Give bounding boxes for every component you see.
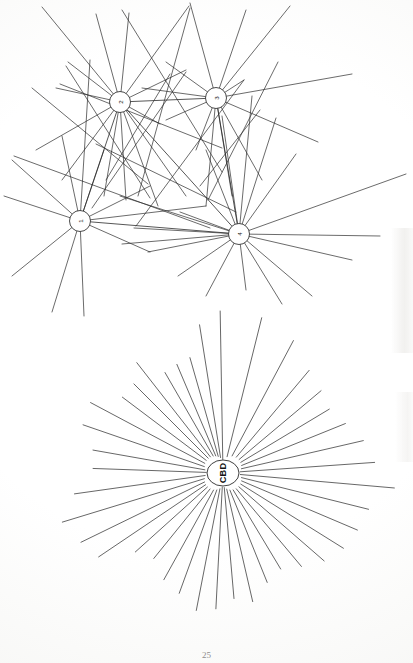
internal-link-line [218, 108, 237, 223]
node-spoke-line [249, 236, 352, 260]
node-spoke-line [249, 174, 406, 230]
node-spoke-line [90, 225, 150, 252]
free-desire-line [208, 62, 278, 200]
node-spoke-line [62, 110, 114, 180]
cbd-ray-line [81, 482, 205, 542]
cbd-ray-line [154, 489, 210, 558]
cbd-ray-line [239, 391, 321, 460]
node-spoke-line [52, 231, 77, 312]
internal-link-line [127, 110, 232, 226]
node-spoke-line [124, 112, 158, 206]
page-number: 25 [0, 650, 413, 660]
node-spoke-line [126, 111, 186, 196]
figure-bottom-cbd-star: CBD [0, 310, 413, 650]
cbd-ray-line [134, 384, 208, 458]
node-spoke-line [206, 108, 215, 206]
top-network-free-lines [14, 8, 278, 228]
node-spoke-line [242, 118, 276, 224]
network-node-label-4: 4 [236, 232, 243, 236]
cbd-ray-line [227, 318, 262, 457]
node-spoke-line [247, 241, 312, 296]
cbd-ray-line [93, 450, 205, 470]
node-spoke-line [12, 160, 72, 214]
cbd-ray-line [190, 358, 218, 457]
free-desire-line [60, 84, 222, 148]
node-spoke-line [89, 186, 150, 216]
cbd-hub: CBD [207, 460, 239, 486]
cbd-ray-line [224, 488, 234, 599]
cbd-ray-line [220, 311, 223, 459]
internal-link-line [130, 98, 205, 101]
node-spoke-line [225, 80, 244, 92]
node-spoke-line [80, 231, 84, 316]
node-spoke-line [62, 136, 78, 211]
node-spoke-line [190, 3, 213, 88]
node-spoke-line [245, 154, 296, 225]
cbd-ray-line [240, 462, 374, 471]
cbd-ray-line [242, 481, 358, 530]
free-desire-line [96, 144, 236, 212]
top-network-spokes [4, 3, 406, 316]
cbd-ray-line [241, 484, 344, 548]
node-spoke-line [178, 240, 230, 276]
node-spoke-line [240, 244, 246, 290]
node-spoke-line [223, 6, 290, 90]
node-spoke-line [219, 10, 246, 88]
node-spoke-line [121, 13, 129, 92]
cbd-ray-line [177, 364, 216, 456]
top-network-nodes: 1234 [70, 88, 250, 245]
node-spoke-line [96, 14, 117, 92]
cbd-ray-line [122, 397, 206, 460]
node-spoke-line [12, 228, 72, 276]
cbd-ray-line [62, 479, 204, 522]
network-node-label-2: 2 [117, 100, 124, 104]
node-spoke-line [104, 112, 118, 196]
free-desire-line [66, 66, 150, 198]
node-spoke-line [42, 7, 113, 94]
cbd-ray-line [99, 485, 206, 557]
node-spoke-line [240, 96, 252, 224]
cbd-ray-line [241, 478, 368, 510]
cbd-hub-label: CBD [218, 463, 228, 484]
node-spoke-line [126, 6, 189, 93]
cbd-ray-line [137, 363, 211, 457]
cbd-ray-line [236, 489, 301, 567]
node-spoke-line [244, 243, 282, 304]
cbd-ray-line [227, 489, 253, 601]
node-spoke-line [4, 196, 70, 218]
node-spoke-line [166, 102, 206, 120]
cbd-ray-line [240, 475, 394, 488]
figure-top-network: 1234 [0, 0, 413, 330]
free-desire-line [136, 80, 244, 226]
cbd-ray-line [93, 468, 206, 472]
cbd-ray-line [196, 489, 220, 611]
network-node-label-3: 3 [213, 96, 220, 100]
node-spoke-line [56, 88, 110, 100]
network-node-label-1: 1 [77, 219, 84, 223]
node-spoke-line [226, 74, 352, 96]
node-spoke-line [206, 243, 234, 296]
node-spoke-line [134, 228, 229, 233]
cbd-ray-line [236, 370, 309, 457]
document-page: 1234 CBD 25 [0, 0, 413, 663]
node-spoke-line [249, 234, 380, 236]
